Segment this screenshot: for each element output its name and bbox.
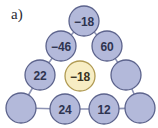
puzzle-node[interactable]: −18 xyxy=(65,61,95,91)
node-circle xyxy=(111,60,141,90)
puzzle-node[interactable]: −46 xyxy=(46,31,76,61)
triangle-puzzle-diagram: −18−466022−182412 xyxy=(0,0,158,128)
node-value: −18 xyxy=(70,70,90,84)
node-value: −18 xyxy=(74,15,94,29)
node-value: 22 xyxy=(34,69,47,83)
puzzle-node-empty[interactable] xyxy=(111,60,141,90)
puzzle-node-empty[interactable] xyxy=(6,93,36,123)
node-circle xyxy=(125,93,155,123)
puzzle-node-empty[interactable] xyxy=(125,93,155,123)
node-value: −46 xyxy=(51,40,71,54)
node-value: 60 xyxy=(101,40,114,54)
puzzle-node[interactable]: 60 xyxy=(92,31,122,61)
puzzle-node[interactable]: 24 xyxy=(50,94,80,124)
puzzle-node[interactable]: 12 xyxy=(89,94,119,124)
node-value: 24 xyxy=(59,103,72,117)
node-layer: −18−466022−182412 xyxy=(6,6,155,124)
puzzle-node[interactable]: 22 xyxy=(25,60,55,90)
puzzle-node[interactable]: −18 xyxy=(69,6,99,36)
node-value: 12 xyxy=(98,103,111,117)
node-circle xyxy=(6,93,36,123)
triangle-puzzle-figure: a) −18−466022−182412 xyxy=(0,0,158,128)
